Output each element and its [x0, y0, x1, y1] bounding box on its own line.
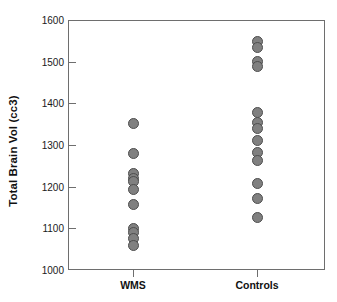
- y-axis-tick: [68, 187, 76, 188]
- y-axis-tick-label: 1300: [20, 140, 64, 151]
- data-point: [128, 148, 139, 159]
- y-axis-tick: [68, 145, 76, 146]
- y-axis-tick-label: 1400: [20, 98, 64, 109]
- x-axis-tick: [133, 270, 134, 277]
- data-point: [252, 135, 263, 146]
- data-point: [252, 178, 263, 189]
- y-axis-tick-label: 1600: [20, 15, 64, 26]
- data-point: [252, 193, 263, 204]
- data-point: [252, 42, 263, 53]
- x-axis-tick-label-controls: Controls: [202, 279, 312, 291]
- scatter-plot-figure: Total Brain Vol (cc3) 100011001200130014…: [0, 0, 337, 302]
- y-axis-tick: [68, 103, 76, 104]
- y-axis-tick-label: 1100: [20, 223, 64, 234]
- y-axis-tick: [68, 62, 76, 63]
- y-axis-tick-label: 1000: [20, 265, 64, 276]
- x-axis-tick: [257, 270, 258, 277]
- data-point: [252, 212, 263, 223]
- y-axis-title: Total Brain Vol (cc3): [0, 0, 26, 302]
- y-axis-tick: [68, 228, 76, 229]
- data-point: [128, 240, 139, 251]
- y-axis-tick-label: 1500: [20, 56, 64, 67]
- x-axis-tick-label-wms: WMS: [78, 279, 188, 291]
- plot-frame: [68, 20, 325, 270]
- data-point: [128, 199, 139, 210]
- data-point: [252, 61, 263, 72]
- data-point: [252, 123, 263, 134]
- data-point: [252, 155, 263, 166]
- data-point: [128, 184, 139, 195]
- data-point: [128, 118, 139, 129]
- y-axis-tick-label: 1200: [20, 181, 64, 192]
